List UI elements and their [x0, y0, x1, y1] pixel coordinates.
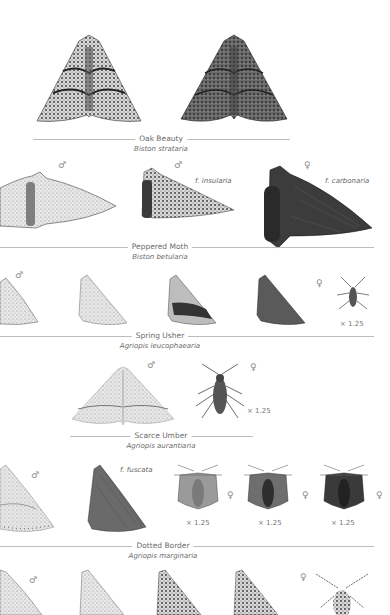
next-species-female-symbol: ♀ — [300, 572, 307, 582]
scarce-umber-male-symbol: ♂ — [147, 360, 155, 370]
oak-beauty-latin-name: Biston strataria — [134, 145, 188, 153]
dotted-border-scale-2: × 1.25 — [258, 519, 282, 527]
spring-usher-female-symbol: ♀ — [316, 278, 323, 288]
dotted-border-scale-1: × 1.25 — [186, 519, 210, 527]
spring-usher-male-image — [0, 278, 40, 326]
oak-beauty-dark-moth-image — [177, 33, 291, 131]
peppered-moth-form-insularia: f. insularia — [195, 177, 232, 185]
scarce-umber-female-image — [192, 364, 248, 424]
scarce-umber-male-image — [70, 365, 176, 427]
dotted-border-fuscata-image — [86, 465, 148, 533]
peppered-moth-male-symbol-2: ♂ — [174, 160, 182, 170]
spring-usher-form-4-image — [255, 275, 307, 327]
scarce-umber-scale: × 1.25 — [247, 407, 271, 415]
spring-usher-scale: × 1.25 — [340, 320, 364, 328]
scarce-umber-common-name: Scarce Umber — [131, 431, 192, 440]
scarce-umber-latin-name: Agriopis aurantiaria — [126, 442, 195, 450]
next-species-male-symbol: ♂ — [29, 575, 37, 585]
spring-usher-male-symbol: ♂ — [15, 270, 23, 280]
dotted-border-common-name: Dotted Border — [132, 541, 193, 550]
spring-usher-latin-name: Agriopis leucophaearia — [120, 342, 200, 350]
dotted-border-latin-name: Agriopis marginaria — [129, 552, 198, 560]
dotted-border-male-symbol: ♂ — [31, 470, 39, 480]
dotted-border-form-fuscata: f. fuscata — [120, 466, 153, 474]
peppered-moth-latin-name: Biston betularia — [132, 253, 187, 261]
scarce-umber-female-symbol: ♀ — [250, 362, 257, 372]
next-species-male-image — [0, 570, 44, 615]
dotted-border-female-symbol-3: ♀ — [376, 490, 383, 500]
next-species-form-4-image — [230, 570, 280, 615]
peppered-moth-female-symbol: ♀ — [304, 160, 311, 170]
dotted-border-female-2-image — [240, 465, 296, 517]
spring-usher-common-name: Spring Usher — [132, 331, 188, 340]
next-species-form-3-image — [153, 570, 203, 615]
dotted-border-female-symbol-1: ♀ — [227, 490, 234, 500]
peppered-moth-common-name: Peppered Moth — [128, 242, 192, 251]
next-species-form-2-image — [76, 570, 126, 615]
spring-usher-female-image — [333, 275, 373, 315]
next-species-female-image — [312, 568, 372, 615]
dotted-border-scale-3: × 1.25 — [331, 519, 355, 527]
dotted-border-female-3-image — [316, 465, 372, 517]
spring-usher-form-3-image — [166, 275, 218, 327]
oak-beauty-common-name: Oak Beauty — [135, 134, 187, 143]
peppered-moth-form-carbonaria: f. carbonaria — [325, 177, 369, 185]
peppered-moth-insularia-image — [138, 168, 236, 220]
peppered-moth-male-symbol-1: ♂ — [58, 160, 66, 170]
peppered-moth-typical-image — [0, 168, 118, 230]
oak-beauty-pale-moth-image — [33, 33, 145, 131]
dotted-border-male-image — [0, 465, 56, 535]
dotted-border-female-symbol-2: ♀ — [302, 490, 309, 500]
spring-usher-form-2-image — [77, 275, 129, 327]
dotted-border-female-1-image — [170, 465, 226, 517]
